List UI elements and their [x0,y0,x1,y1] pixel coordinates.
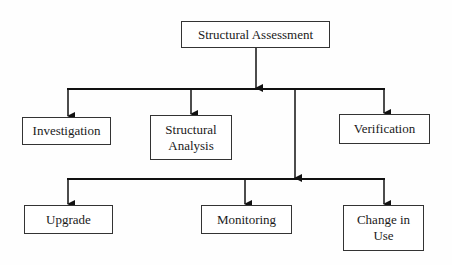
node-label: Structural Assessment [198,27,313,43]
node-verification: Verification [339,114,430,144]
node-label: Verification [354,121,415,137]
node-label-line-1: Change in [357,212,410,228]
node-label-line-1: Structural [165,122,216,138]
node-label: Upgrade [46,212,91,228]
node-monitoring: Monitoring [201,205,292,234]
node-label-line-2: Analysis [168,138,214,154]
node-upgrade: Upgrade [24,205,113,234]
node-label-line-2: Use [373,228,393,244]
node-structural-analysis: Structural Analysis [150,115,232,160]
node-investigation: Investigation [22,117,111,145]
node-structural-assessment: Structural Assessment [181,21,330,48]
node-label: Investigation [33,123,101,139]
node-label: Monitoring [217,212,276,228]
node-change-in-use: Change in Use [343,205,424,251]
flowchart-canvas: Structural Assessment Investigation Stru… [0,0,452,265]
